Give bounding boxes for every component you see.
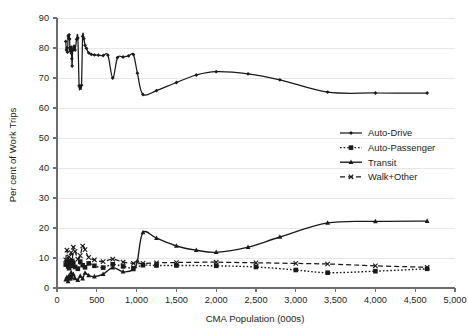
x-tick-label: 4,000 [364,295,387,305]
y-tick-label: 40 [39,163,49,173]
legend-item-auto-drive[interactable]: Auto-Drive [340,127,412,138]
x-axis-title: CMA Population (000s) [206,313,305,324]
y-tick-label: 80 [39,43,49,53]
x-tick-label: 3,000 [284,295,307,305]
legend-label: Transit [368,157,397,168]
y-tick-label: 60 [39,103,49,113]
y-tick-label: 70 [39,73,49,83]
chart-container: 0102030405060708090 05001,0001,5002,0002… [0,0,468,331]
legend-item-auto-passenger[interactable]: Auto-Passenger [340,142,435,153]
series-auto-drive [64,33,429,97]
y-tick-label: 20 [39,223,49,233]
x-tick-label: 1,500 [165,295,188,305]
legend-label: Auto-Passenger [368,142,435,153]
x-axis [57,288,455,292]
legend-item-walk-other[interactable]: Walk+Other [340,171,417,182]
x-tick-label: 2,500 [245,295,268,305]
x-tick-label: 500 [89,295,104,305]
x-tick-label: 1,000 [125,295,148,305]
x-tick-label: 3,500 [324,295,347,305]
legend-label: Walk+Other [368,171,417,182]
y-tick-label: 90 [39,13,49,23]
y-tick-label: 50 [39,133,49,143]
x-tick-label: 2,000 [205,295,228,305]
y-tick-label: 30 [39,193,49,203]
x-tick-label: 5,000 [444,295,467,305]
y-tick-labels: 0102030405060708090 [39,13,49,293]
y-tick-label: 0 [44,283,49,293]
x-tick-label: 4,500 [404,295,427,305]
legend-item-transit[interactable]: Transit [340,157,397,168]
work-trips-line-chart: 0102030405060708090 05001,0001,5002,0002… [0,0,468,331]
legend: Auto-DriveAuto-PassengerTransitWalk+Othe… [340,127,435,182]
y-axis [53,18,57,288]
x-tick-label: 0 [54,295,59,305]
x-tick-labels: 05001,0001,5002,0002,5003,0003,5004,0004… [54,295,466,305]
y-tick-label: 10 [39,253,49,263]
y-axis-title: Per cent of Work Trips [7,107,18,202]
legend-label: Auto-Drive [368,127,412,138]
